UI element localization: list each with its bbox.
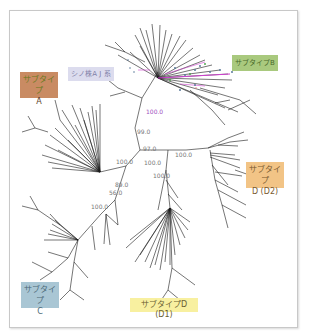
bootstrap-value: 89.0	[115, 181, 128, 188]
subtype-d2-label: サブタイプ D (D2)	[246, 162, 284, 188]
subtype-c-label-line2: C	[24, 306, 56, 317]
subtype-a-label: サブタイプ A	[20, 72, 58, 98]
subtype-b-label: サブタイプB	[232, 55, 278, 71]
subtype-d1-label: サブタイプD (D1)	[130, 298, 198, 312]
bootstrap-value: 100.0	[116, 158, 133, 165]
subtype-d2-label-line2: D (D2)	[249, 186, 281, 197]
subtype-a-label-line1: サブタイプ	[23, 74, 55, 96]
subtype-c-label: サブタイプ C	[21, 282, 59, 308]
subtype-b-label-text: サブタイプB	[235, 59, 275, 67]
bootstrap-value: 100.0	[91, 203, 108, 210]
sino-strain-label: シノ株A J 系	[68, 67, 114, 81]
bootstrap-value: 100.0	[175, 151, 192, 158]
bootstrap-value: 100.0	[153, 172, 170, 179]
subtype-a-cluster	[22, 100, 126, 172]
subtype-d2-label-line1: サブタイプ	[249, 164, 281, 186]
subtype-b-cluster	[105, 24, 256, 125]
subtype-c-label-line1: サブタイプ	[24, 284, 56, 306]
bootstrap-value: 100.0	[146, 108, 163, 115]
bootstrap-value: 56.0	[109, 189, 122, 196]
sino-strain-label-text: シノ株A J 系	[71, 70, 110, 78]
subtype-a-label-line2: A	[23, 96, 55, 107]
bootstrap-value: 97.0	[143, 145, 156, 152]
subtype-d1-cluster	[126, 170, 195, 305]
bootstrap-value: 99.0	[137, 128, 150, 135]
bootstrap-value: 100.0	[144, 159, 161, 166]
